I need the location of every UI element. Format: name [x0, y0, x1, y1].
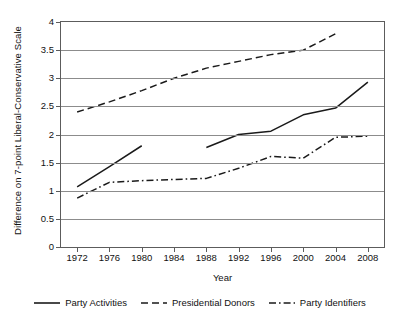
x-tick-mark — [239, 248, 240, 252]
x-tick-mark — [271, 248, 272, 252]
series-line — [77, 136, 368, 198]
legend-label: Presidential Donors — [172, 297, 255, 308]
x-axis-title: Year — [60, 272, 385, 283]
x-tick-mark — [303, 248, 304, 252]
gridline — [61, 78, 384, 79]
y-tick-label: 2.5 — [28, 101, 54, 111]
chart-figure: Difference on 7-point Liberal-Conservati… — [0, 0, 400, 321]
x-tick-mark — [142, 248, 143, 252]
y-axis-title: Difference on 7-point Liberal-Conservati… — [12, 26, 23, 235]
y-tick-label: 3.5 — [28, 45, 54, 55]
gridline — [61, 50, 384, 51]
x-tick-mark — [174, 248, 175, 252]
legend-item: Party Identifiers — [269, 297, 366, 308]
chart-legend: Party ActivitiesPresidential DonorsParty… — [0, 297, 400, 308]
y-tick-label: 0 — [28, 242, 54, 252]
y-tick-label: 4 — [28, 17, 54, 27]
x-tick-mark — [77, 248, 78, 252]
gridline — [61, 106, 384, 107]
x-tick-mark — [336, 248, 337, 252]
gridline — [61, 219, 384, 220]
legend-label: Party Activities — [65, 297, 127, 308]
legend-label: Party Identifiers — [300, 297, 366, 308]
x-tick-label: 2008 — [348, 252, 388, 263]
x-tick-mark — [109, 248, 110, 252]
legend-swatch-dash-dot — [269, 299, 295, 307]
y-tick-label: 0.5 — [28, 214, 54, 224]
plot-area — [60, 21, 385, 248]
y-tick-label: 2 — [28, 130, 54, 140]
y-tick-label: 1 — [28, 186, 54, 196]
legend-swatch-solid — [34, 299, 60, 307]
y-tick-label: 1.5 — [28, 158, 54, 168]
gridline — [61, 191, 384, 192]
series-line — [77, 34, 335, 112]
y-tick-label: 3 — [28, 73, 54, 83]
x-tick-mark — [368, 248, 369, 252]
legend-swatch-dashed — [141, 299, 167, 307]
gridline — [61, 163, 384, 164]
legend-item: Presidential Donors — [141, 297, 255, 308]
legend-item: Party Activities — [34, 297, 127, 308]
gridline — [61, 135, 384, 136]
x-tick-mark — [206, 248, 207, 252]
